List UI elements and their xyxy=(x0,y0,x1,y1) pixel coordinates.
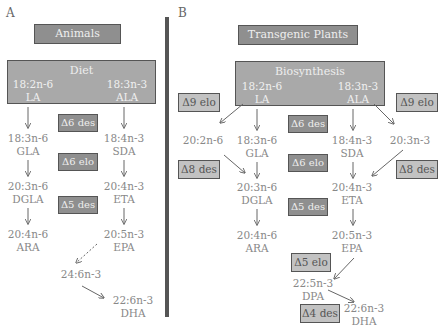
pathway-arrows xyxy=(0,0,440,328)
